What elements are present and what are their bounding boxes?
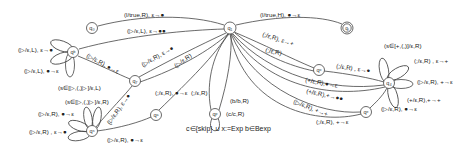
label-qs-loop-1: (s∈[▷,(,)▷]/ε,R) [65, 98, 109, 105]
state-qo[interactable]: qo [314, 65, 325, 76]
label-qe-q1-b: (;/ε,R), +→ε [316, 118, 349, 125]
label-qb-q1: (▷/ε,L), ε→●● [127, 27, 166, 34]
state-q1[interactable]: q₁ [224, 22, 236, 34]
svg-text:q₄: q₄ [386, 80, 392, 86]
caption: c∈{skip} ∪ x:=Exp b∈Bexp [186, 125, 271, 133]
state-qe[interactable]: qe [361, 107, 372, 118]
edge-qp-q1-left [209, 34, 229, 110]
label-qs-loop-3: (▷/ε,R) , ε→● [29, 128, 67, 135]
label-q4-q1-b: (+/ε,R),+→●● [306, 87, 344, 102]
label-qp-loop-b: (b/b,R) [230, 97, 249, 104]
label-q4-loop-1: (s∈[+,(,)]/ε,R) [384, 42, 422, 49]
label-q0-q1: (l/true,R), ε→● [124, 11, 164, 18]
svg-text:q₁: q₁ [228, 25, 233, 31]
svg-text:q₇: q₇ [133, 78, 138, 84]
label-qa-q1: (;/ε,R), ●→ε [155, 89, 188, 96]
label-qp-loop-c: (c/c,R) [226, 110, 244, 117]
label-qs-q7: (▷/ε,R), ε→● [105, 92, 131, 126]
pushdown-automaton-diagram: q₀ q₁ qf qb q₇ qs qa qp qo q₄ qe (l/true… [0, 0, 473, 154]
state-qf[interactable]: qf [341, 22, 353, 34]
label-q7-q1-a: (▷/ε,R), ε→● [140, 44, 175, 68]
label-qp-q1: (;/ε,R) [191, 89, 208, 96]
label-q4-qe: (▷/ε,R), ●→ε [381, 105, 417, 112]
state-q0[interactable]: q₀ [87, 23, 98, 34]
label-qb-loop-2: (▷/ε,L), ●→ε [24, 67, 59, 74]
label-qb-q7: (▷/ε,R), ●→ε [86, 52, 121, 75]
label-q1-qo-a: (;/ε,R), ε→+ [262, 30, 295, 47]
label-q1-qf: (l/true,H), ●→ε [260, 11, 300, 18]
edge-q1-qf [236, 17, 342, 25]
state-qp[interactable]: qp [210, 109, 221, 120]
edge-q0-q1 [98, 17, 224, 26]
state-qb[interactable]: qb [68, 47, 79, 58]
state-q7[interactable]: q₇ [130, 76, 141, 87]
label-qs-loop-2: (▷/ε,R), ●→ε [38, 110, 74, 117]
label-q4-loop-2: (;/ε,R) , ε→+ [414, 57, 449, 64]
label-q4-loop-4: (+/ε,R),+→+ [407, 96, 441, 103]
state-qa[interactable]: qa [151, 110, 162, 121]
label-qb-loop-1: (▷/ε,L), ε→● [18, 46, 53, 53]
label-qs-qa: (▷/ε,R), ●→ε [107, 136, 143, 143]
label-q4-loop-3: (▷/ε,R), +→ε [417, 78, 453, 85]
label-qo-q4: (;/ε,R) , ε→● [336, 62, 371, 74]
edge-qs-qa [97, 117, 151, 131]
state-q4[interactable]: q₄ [384, 78, 395, 89]
label-q7-loop: (s∈[▷,(,)▷]/ε,L) [58, 84, 101, 91]
svg-text:q₀: q₀ [89, 25, 94, 31]
state-qs[interactable]: qs [87, 126, 98, 137]
